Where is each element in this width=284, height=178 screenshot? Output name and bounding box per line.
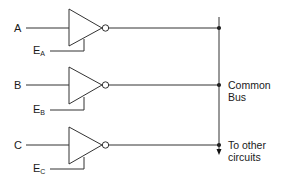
input-label-a: A (14, 22, 22, 34)
enable-label-c: EC (33, 162, 45, 175)
inverter-bubble-c (102, 142, 108, 148)
buffer-triangle-c (69, 127, 102, 164)
bus-label-line2: Bus (228, 91, 246, 103)
output-label-line2: circuits (228, 151, 261, 163)
gate-c: C EC (14, 127, 221, 175)
input-label-b: B (14, 79, 21, 91)
enable-label-b: EB (33, 103, 45, 116)
common-bus: Common Bus To other circuits (217, 17, 271, 163)
output-label-line1: To other (228, 139, 266, 151)
inverter-bubble-b (102, 82, 108, 88)
buffer-triangle-a (69, 9, 102, 46)
input-label-c: C (14, 139, 22, 151)
enable-wire-b (50, 97, 84, 110)
bus-label-line1: Common (228, 79, 271, 91)
arrow-down-icon (217, 149, 222, 155)
buffer-triangle-b (69, 67, 102, 104)
gate-b: B EB (14, 67, 221, 116)
gate-a: A EA (14, 9, 221, 57)
enable-label-a: EA (33, 44, 45, 57)
tri-state-bus-diagram: A EA B EB C EC Common Bus To other (0, 0, 284, 178)
inverter-bubble-a (102, 25, 108, 31)
